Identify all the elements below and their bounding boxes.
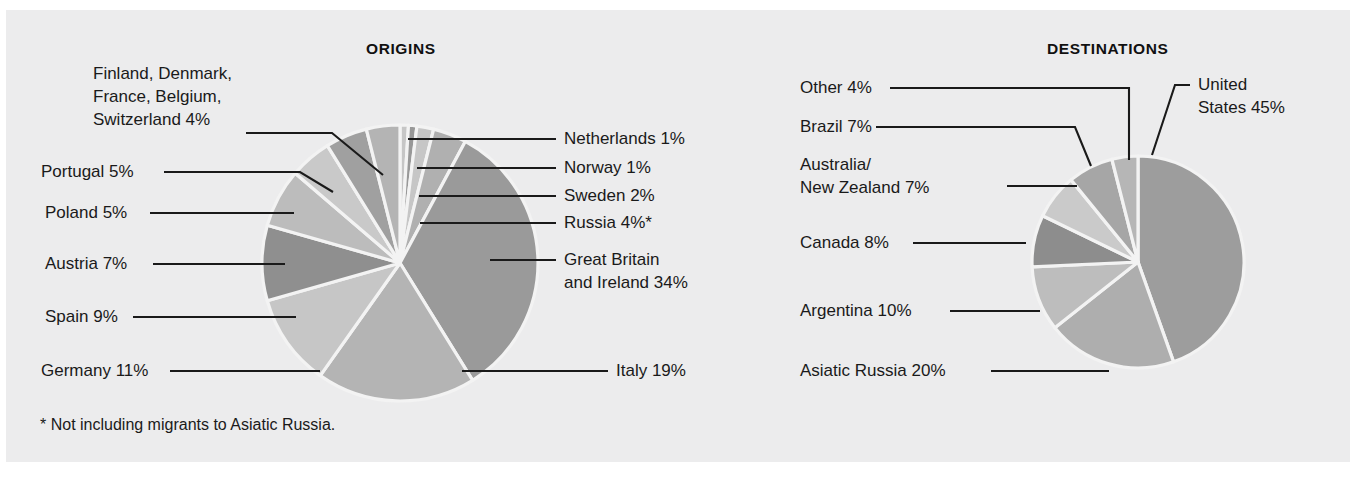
label-canada: Canada 8% bbox=[800, 231, 889, 254]
label-spain: Spain 9% bbox=[45, 305, 118, 328]
label-germany: Germany 11% bbox=[41, 359, 148, 382]
label-nordic-group-line1: Finland, Denmark, bbox=[93, 62, 232, 85]
label-italy: Italy 19% bbox=[616, 359, 686, 382]
leader-brazil bbox=[876, 127, 1091, 166]
label-other: Other 4% bbox=[800, 76, 872, 99]
destinations-title: DESTINATIONS bbox=[1047, 40, 1168, 58]
label-great-britain-line2: and Ireland 34% bbox=[564, 271, 688, 294]
figure-root: ORIGINS DESTINATIONS Finland, Denmark, F… bbox=[0, 0, 1356, 481]
label-nordic-group-line3: Switzerland 4% bbox=[93, 108, 210, 131]
label-netherlands: Netherlands 1% bbox=[564, 127, 685, 150]
label-austria: Austria 7% bbox=[45, 252, 127, 275]
label-united-states-line1: United bbox=[1198, 73, 1247, 96]
label-great-britain-line1: Great Britain bbox=[564, 248, 659, 271]
label-asiatic-russia: Asiatic Russia 20% bbox=[800, 359, 946, 382]
origins-pie bbox=[262, 125, 538, 401]
origins-title: ORIGINS bbox=[366, 40, 436, 58]
label-norway: Norway 1% bbox=[564, 156, 651, 179]
label-portugal: Portugal 5% bbox=[41, 160, 134, 183]
label-united-states-line2: States 45% bbox=[1198, 96, 1285, 119]
leader-other bbox=[890, 88, 1129, 160]
leader-united-states bbox=[1152, 85, 1190, 155]
footnote: * Not including migrants to Asiatic Russ… bbox=[40, 416, 335, 434]
label-australia-nz-line2: New Zealand 7% bbox=[800, 176, 929, 199]
label-russia: Russia 4%* bbox=[564, 211, 652, 234]
destinations-pie bbox=[1032, 156, 1244, 368]
label-argentina: Argentina 10% bbox=[800, 299, 912, 322]
label-nordic-group-line2: France, Belgium, bbox=[93, 85, 222, 108]
label-poland: Poland 5% bbox=[45, 201, 127, 224]
label-australia-nz-line1: Australia/ bbox=[800, 153, 871, 176]
label-sweden: Sweden 2% bbox=[564, 184, 655, 207]
label-brazil: Brazil 7% bbox=[800, 115, 872, 138]
